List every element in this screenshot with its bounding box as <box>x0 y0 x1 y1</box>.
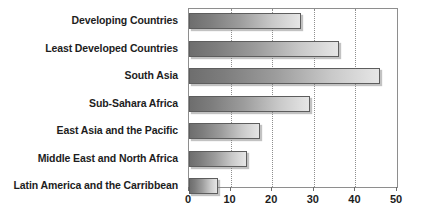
category-label: Sub-Sahara Africa <box>89 95 178 111</box>
category-label: South Asia <box>125 67 178 83</box>
tick-mark-10 <box>230 187 231 191</box>
bar-fill <box>189 96 310 112</box>
bar-fill <box>189 41 339 57</box>
plot-area <box>188 8 398 188</box>
bar-least-developed-countries <box>189 41 339 57</box>
bar-south-asia <box>189 68 380 84</box>
category-label: Middle East and North Africa <box>38 150 178 166</box>
tick-mark-20 <box>271 187 272 191</box>
tick-mark-30 <box>313 187 314 191</box>
bar-chart: Developing Countries Least Developed Cou… <box>0 0 427 221</box>
bar-east-asia-and-the-pacific <box>189 123 260 139</box>
bar-fill <box>189 151 247 167</box>
bar-fill <box>189 68 380 84</box>
bar-middle-east-and-north-africa <box>189 151 247 167</box>
value-axis: 0 10 20 30 40 50 <box>188 187 396 217</box>
bar-sub-sahara-africa <box>189 96 310 112</box>
tick-mark-0 <box>188 187 189 191</box>
bar-fill <box>189 123 260 139</box>
tick-mark-40 <box>354 187 355 191</box>
tick-label-40: 40 <box>334 193 374 205</box>
bar-fill <box>189 13 301 29</box>
tick-label-50: 50 <box>376 193 416 205</box>
category-label: East Asia and the Pacific <box>57 122 178 138</box>
tick-label-20: 20 <box>251 193 291 205</box>
tick-label-10: 10 <box>210 193 250 205</box>
category-label: Least Developed Countries <box>45 40 178 56</box>
tick-label-0: 0 <box>168 193 208 205</box>
bar-developing-countries <box>189 13 301 29</box>
tick-label-30: 30 <box>293 193 333 205</box>
category-label: Latin America and the Carribbean <box>14 177 178 193</box>
tick-mark-50 <box>396 187 397 191</box>
gridline-40 <box>355 9 356 187</box>
gridline-30 <box>314 9 315 187</box>
category-axis: Developing Countries Least Developed Cou… <box>0 0 184 186</box>
category-label: Developing Countries <box>71 12 178 28</box>
